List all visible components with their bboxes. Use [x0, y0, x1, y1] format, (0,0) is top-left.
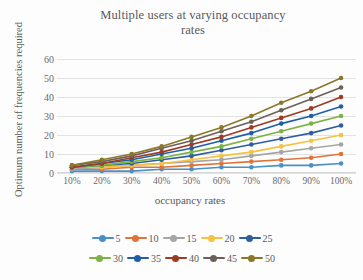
data-point [100, 157, 105, 162]
data-point [249, 131, 254, 136]
y-tick-label: 20 [30, 130, 54, 141]
data-point [279, 121, 284, 126]
x-tick-label: 90% [302, 176, 319, 186]
x-axis-title: occupancy rates [40, 194, 340, 206]
data-point [309, 106, 314, 111]
data-point [249, 159, 254, 164]
data-point [339, 95, 344, 100]
data-point [279, 100, 284, 105]
data-point [219, 144, 224, 149]
data-point [339, 152, 344, 157]
legend-marker-icon [239, 233, 261, 243]
data-point [249, 119, 254, 124]
legend-label: 15 [187, 233, 197, 244]
data-point [339, 104, 344, 109]
legend-label: 50 [265, 253, 275, 264]
legend-item-15[interactable]: 15 [163, 233, 197, 244]
legend-label: 10 [149, 233, 159, 244]
legend-marker-icon [201, 233, 223, 243]
data-point [279, 150, 284, 155]
x-tick-label: 100% [330, 176, 352, 186]
data-point [309, 97, 314, 102]
data-point [339, 76, 344, 81]
data-point [219, 125, 224, 130]
x-tick-label: 40% [153, 176, 170, 186]
y-tick-label: 30 [30, 111, 54, 122]
legend-item-40[interactable]: 40 [165, 253, 199, 264]
data-point [279, 137, 284, 142]
data-point [339, 123, 344, 128]
data-point [249, 114, 254, 119]
x-tick-label: 20% [93, 176, 110, 186]
legend-marker-icon [241, 253, 263, 263]
legend-item-20[interactable]: 20 [201, 233, 235, 244]
data-point [309, 89, 314, 94]
y-axis-title: Optimum number of frequencies required [13, 20, 24, 200]
data-point [249, 125, 254, 130]
legend-marker-icon [165, 253, 187, 263]
data-point [339, 142, 344, 147]
legend-marker-icon [89, 253, 111, 263]
data-point [279, 157, 284, 162]
data-point [219, 135, 224, 140]
legend-item-5[interactable]: 5 [92, 233, 121, 244]
legend-item-35[interactable]: 35 [127, 253, 161, 264]
legend-item-50[interactable]: 50 [241, 253, 275, 264]
legend-label: 5 [116, 233, 121, 244]
legend-marker-icon [92, 233, 114, 243]
legend-item-30[interactable]: 30 [89, 253, 123, 264]
legend-item-25[interactable]: 25 [239, 233, 273, 244]
legend-row: 510152025 [56, 228, 308, 248]
y-tick-label: 10 [30, 149, 54, 160]
x-tick-label: 80% [273, 176, 290, 186]
data-point [309, 163, 314, 168]
data-point [309, 121, 314, 126]
chart-title-line-1: Multiple users at varying occupancy [62, 8, 324, 23]
data-point [339, 133, 344, 138]
data-point [279, 163, 284, 168]
legend-label: 30 [113, 253, 123, 264]
y-axis-tick-labels: 0102030405060 [28, 59, 54, 173]
legend-label: 35 [151, 253, 161, 264]
chart-title-line-2: rates [62, 23, 324, 38]
x-tick-label: 60% [213, 176, 230, 186]
data-point [309, 131, 314, 136]
data-point [249, 142, 254, 147]
chart-container: Multiple users at varying occupancy rate… [0, 0, 363, 280]
data-point [70, 163, 75, 168]
y-tick-label: 50 [30, 73, 54, 84]
chart-title: Multiple users at varying occupancy rate… [62, 8, 324, 38]
data-point [249, 137, 254, 142]
legend-row: 3035404550 [56, 248, 308, 268]
legend-marker-icon [203, 253, 225, 263]
legend-item-10[interactable]: 10 [125, 233, 159, 244]
data-point [159, 144, 164, 149]
data-point [309, 146, 314, 151]
x-tick-label: 50% [183, 176, 200, 186]
chart-legend: 5101520253035404550 [56, 228, 308, 268]
data-point [279, 129, 284, 134]
series-50 [70, 76, 344, 168]
data-point [339, 85, 344, 90]
x-tick-label: 70% [243, 176, 260, 186]
data-point [309, 138, 314, 143]
legend-marker-icon [125, 233, 147, 243]
data-point [219, 154, 224, 159]
data-point [309, 156, 314, 161]
data-point [279, 144, 284, 149]
x-tick-label: 10% [63, 176, 80, 186]
plot-area [57, 59, 356, 173]
data-point [309, 114, 314, 119]
y-tick-label: 0 [30, 168, 54, 179]
legend-marker-icon [127, 253, 149, 263]
legend-item-45[interactable]: 45 [203, 253, 237, 264]
data-point [249, 165, 254, 170]
y-tick-label: 40 [30, 92, 54, 103]
legend-label: 20 [225, 233, 235, 244]
data-point [189, 135, 194, 140]
y-tick-label: 60 [30, 54, 54, 65]
data-point [339, 161, 344, 166]
data-point [249, 150, 254, 155]
legend-label: 45 [227, 253, 237, 264]
data-point [339, 114, 344, 119]
